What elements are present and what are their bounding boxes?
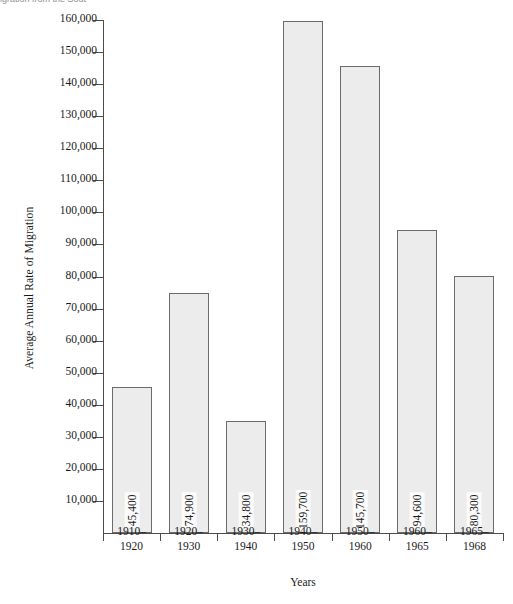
bar: 74,900 [169, 293, 209, 533]
y-axis-tick-label: 10,000 [65, 493, 97, 505]
y-axis-tick-label: 140,000 [60, 76, 97, 88]
x-axis-category-label: 1910–1920 [103, 524, 160, 554]
y-axis-tick-label: 60,000 [65, 333, 97, 345]
bar: 80,300 [454, 276, 494, 533]
x-axis-category-label: 1960–1965 [389, 524, 446, 554]
y-axis-tick-label: 20,000 [65, 461, 97, 473]
x-axis-category-label: 1920–1930 [160, 524, 217, 554]
bar: 159,700 [283, 21, 323, 533]
x-axis-category-line: 1930 [160, 539, 217, 554]
plot-area: 10,00020,00030,00040,00050,00060,00070,0… [103, 20, 503, 533]
y-axis-tick-label: 130,000 [60, 108, 97, 120]
y-axis-tick-label: 160,000 [60, 12, 97, 24]
y-axis-line [103, 20, 104, 533]
x-axis-category-line: 1960 [332, 539, 389, 554]
x-axis-category-line: 1950– [332, 524, 389, 539]
x-axis-category-line: 1968 [446, 539, 503, 554]
bar: 34,800 [226, 421, 266, 533]
y-axis-tick-label: 40,000 [65, 397, 97, 409]
x-axis-category-line: 1920– [160, 524, 217, 539]
x-axis-category-label: 1965–1968 [446, 524, 503, 554]
bar: 145,700 [340, 66, 380, 533]
x-axis-category-line: 1950 [274, 539, 331, 554]
y-axis-tick-label: 110,000 [60, 172, 97, 184]
bar: 94,600 [397, 230, 437, 533]
x-axis-category-label: 1950–1960 [332, 524, 389, 554]
y-axis-tick-label: 30,000 [65, 429, 97, 441]
x-axis-category-label: 1930–1940 [217, 524, 274, 554]
x-axis-category-line: 1920 [103, 539, 160, 554]
y-axis-tick-label: 150,000 [60, 44, 97, 56]
bar-chart: Average Annual Rate of Migration 10,0002… [0, 0, 513, 604]
x-axis-category-line: 1910– [103, 524, 160, 539]
y-axis-tick-label: 80,000 [65, 269, 97, 281]
y-axis-tick-label: 50,000 [65, 365, 97, 377]
y-axis-tick-label: 100,000 [60, 204, 97, 216]
y-axis-tick-label: 120,000 [60, 140, 97, 152]
x-axis-category-line: 1940 [217, 539, 274, 554]
x-axis-category-line: 1960– [389, 524, 446, 539]
x-axis-title: Years [103, 576, 503, 588]
y-axis-tick-label: 70,000 [65, 301, 97, 313]
x-axis-category-line: 1940– [274, 524, 331, 539]
x-axis-category-label: 1940–1950 [274, 524, 331, 554]
y-axis-tick-label: 90,000 [65, 236, 97, 248]
y-axis-title: Average Annual Rate of Migration [23, 138, 35, 438]
x-axis-category-line: 1930– [217, 524, 274, 539]
bar: 45,400 [112, 387, 152, 533]
x-axis-tick-mark [503, 533, 504, 541]
x-axis-category-line: 1965– [446, 524, 503, 539]
x-axis-category-line: 1965 [389, 539, 446, 554]
